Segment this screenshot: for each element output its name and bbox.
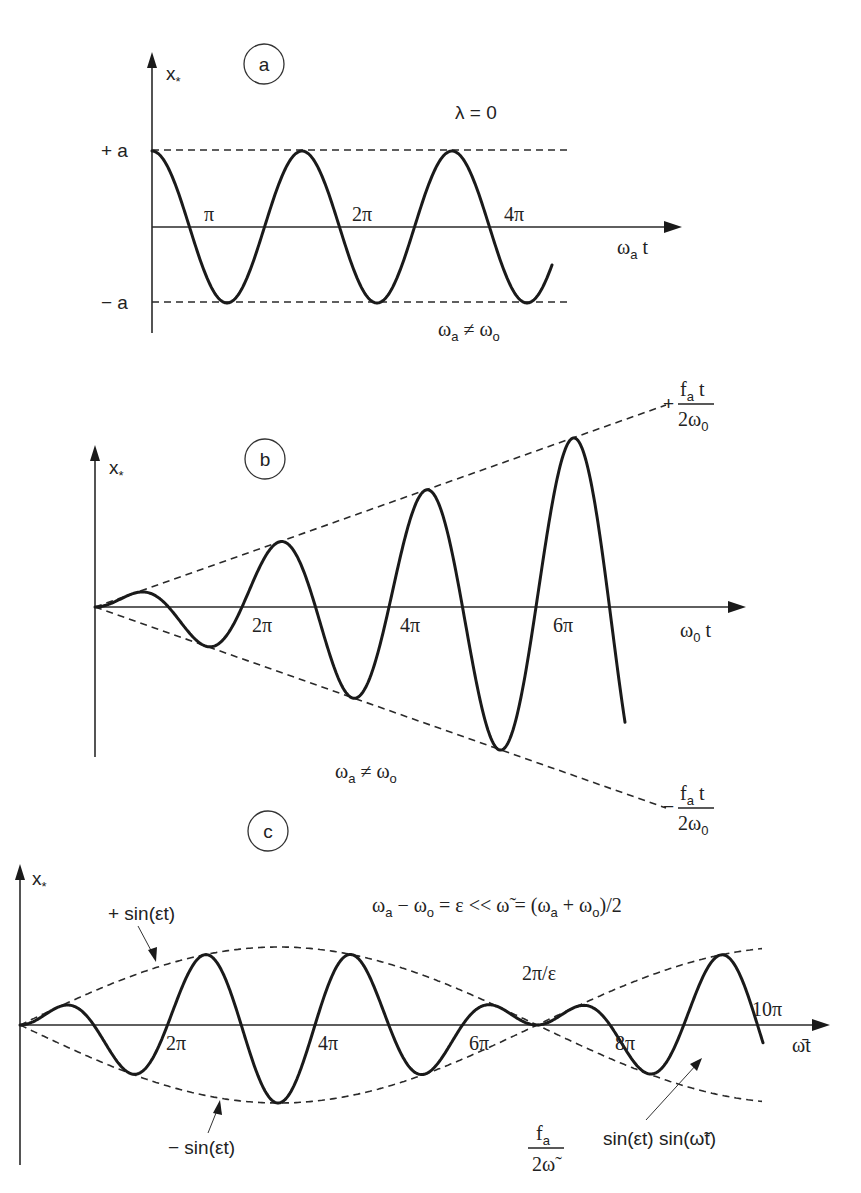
panel-a-x-arrow-icon bbox=[664, 221, 682, 233]
panel-b-curve bbox=[95, 438, 625, 750]
panel-c-y-label: x* bbox=[32, 868, 47, 894]
panel-a-x-label: ωa t bbox=[617, 236, 648, 262]
panel-c-lower-envelope-label: − sin(εt) bbox=[168, 1137, 235, 1158]
panel-c: c x* ωa − ωo = ε << ω̃ = (ωa + ωo)/2 + s… bbox=[15, 811, 830, 1175]
panel-a: a x* λ = 0 + a − a π 2π 4π ωa t ωa ≠ ωo bbox=[101, 44, 682, 344]
panel-b-note: ωa ≠ ωo bbox=[335, 760, 397, 786]
panel-b-x-label: ω0 t bbox=[680, 619, 711, 645]
panel-a-tick-2pi: 2π bbox=[352, 203, 372, 225]
panel-c-tick-6pi: 6π bbox=[469, 1032, 489, 1054]
panel-a-y-arrow-icon bbox=[147, 52, 157, 68]
panel-a-condition: λ = 0 bbox=[455, 102, 497, 123]
svg-text:fa t: fa t bbox=[680, 378, 705, 404]
panel-c-product-label: sin(εt) sin(ω̃t) bbox=[603, 1128, 716, 1149]
panel-b-tick-4pi: 4π bbox=[400, 614, 420, 636]
panel-a-note: ωa ≠ ωo bbox=[438, 318, 500, 344]
panel-b-tick-6pi: 6π bbox=[553, 614, 573, 636]
panel-c-lower-pointer-arrow-icon bbox=[213, 1100, 222, 1115]
panel-c-upper-envelope-label: + sin(εt) bbox=[108, 903, 175, 924]
panel-c-tick-10pi: 10π bbox=[752, 998, 782, 1020]
panel-a-lower-label: − a bbox=[101, 292, 128, 313]
panel-c-beat-label: 2π/ε bbox=[522, 962, 556, 984]
panel-c-y-arrow-icon bbox=[15, 864, 25, 880]
panel-c-tick-8pi: 8π bbox=[615, 1032, 635, 1054]
panel-c-lower-envelope bbox=[20, 949, 762, 1103]
panel-b-upper-envelope bbox=[95, 405, 666, 607]
svg-text:fa t: fa t bbox=[680, 782, 705, 808]
panel-a-upper-label: + a bbox=[101, 140, 128, 161]
panel-b-upper-envelope-label: + fa t 2ω0 bbox=[663, 378, 714, 434]
panel-b-y-label: x* bbox=[109, 457, 124, 483]
panel-b: b x* 2π 4π 6π ω0 t ωa ≠ ωo + fa t 2ω0 − … bbox=[90, 378, 746, 838]
panel-a-y-label: x* bbox=[166, 63, 181, 89]
svg-text:−: − bbox=[663, 796, 674, 817]
panel-c-x-arrow-icon bbox=[812, 1019, 830, 1031]
panel-c-badge-label: c bbox=[263, 821, 273, 842]
panel-c-amplitude-label: fa 2ω̃ bbox=[528, 1122, 564, 1175]
figure-canvas: a x* λ = 0 + a − a π 2π 4π ωa t ωa ≠ ωo … bbox=[0, 0, 861, 1193]
panel-c-upper-pointer-arrow-icon bbox=[148, 947, 157, 962]
svg-text:2ω̃: 2ω̃ bbox=[532, 1153, 562, 1175]
panel-a-tick-4pi: 4π bbox=[504, 203, 524, 225]
svg-text:2ω0: 2ω0 bbox=[678, 812, 708, 838]
panel-c-relation: ωa − ωo = ε << ω̃ = (ωa + ωo)/2 bbox=[372, 894, 622, 920]
panel-a-tick-pi: π bbox=[204, 203, 214, 225]
panel-b-lower-envelope-label: − fa t 2ω0 bbox=[663, 782, 714, 838]
svg-text:+: + bbox=[663, 393, 674, 414]
panel-c-tick-2pi: 2π bbox=[166, 1032, 186, 1054]
svg-text:2ω0: 2ω0 bbox=[678, 408, 708, 434]
panel-b-tick-2pi: 2π bbox=[252, 614, 272, 636]
panel-b-y-arrow-icon bbox=[90, 445, 100, 461]
panel-b-x-arrow-icon bbox=[728, 601, 746, 613]
panel-a-badge-label: a bbox=[259, 54, 270, 75]
panel-c-tick-4pi: 4π bbox=[318, 1032, 338, 1054]
panel-b-badge-label: b bbox=[260, 449, 271, 470]
svg-text:fa: fa bbox=[536, 1122, 551, 1148]
panel-c-x-label: ω̄t bbox=[792, 1034, 811, 1056]
